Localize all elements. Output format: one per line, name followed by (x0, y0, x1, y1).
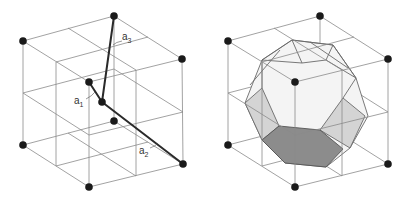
atom (85, 78, 93, 86)
atom (110, 117, 118, 125)
atom (19, 141, 27, 149)
atom (19, 37, 27, 45)
right-cube (224, 12, 392, 191)
left-cube: a1 a2 a3 (19, 12, 187, 191)
label-a1: a1 (74, 95, 84, 108)
label-a3: a3 (122, 31, 132, 44)
atom (291, 78, 299, 86)
atom (316, 12, 324, 20)
atom (224, 141, 232, 149)
atom (85, 183, 93, 191)
atom (178, 55, 186, 63)
atom (291, 183, 299, 191)
atom (179, 160, 187, 168)
wigner-seitz-cell (245, 40, 368, 167)
atom (384, 55, 392, 63)
vector-a3 (102, 16, 114, 102)
bcc-figure: a1 a2 a3 (0, 0, 410, 201)
atom (224, 37, 232, 45)
label-a2: a2 (139, 145, 149, 158)
atom (384, 160, 392, 168)
atom (110, 12, 118, 20)
center-atom (98, 98, 106, 106)
left-atoms (19, 12, 187, 191)
